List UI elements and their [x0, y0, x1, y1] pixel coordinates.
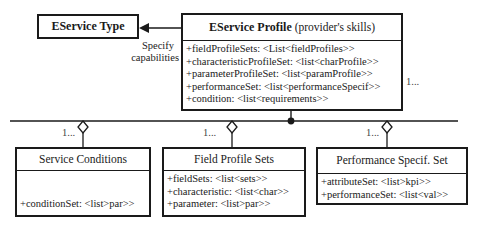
- attribute: +fieldSets: <list<sets>>: [167, 173, 301, 186]
- attribute: +parameter: <list>par>>: [167, 198, 301, 211]
- class-name: EService Profile: [209, 20, 292, 34]
- attribute-list: +fieldProfileSets: <List<fieldProfiles>>…: [183, 41, 401, 108]
- association-label: Specify capabilities: [137, 40, 179, 64]
- arrowhead-icon: [139, 23, 149, 33]
- attribute: +characteristic: <list<char>>: [167, 186, 301, 199]
- attribute: +fieldProfileSets: <List<fieldProfiles>>: [186, 43, 398, 56]
- multiplicity-label: 1...: [203, 127, 216, 139]
- multiplicity-label: 1...: [366, 127, 379, 139]
- class-header: Performance Specif. Set: [318, 149, 466, 174]
- class-header: Field Profile Sets: [164, 149, 304, 171]
- class-name: Performance Specif. Set: [336, 154, 447, 166]
- attribute: +parameterProfileSet: <list<paramProfile…: [186, 68, 398, 81]
- aggregation-diamond-icon: [227, 121, 237, 147]
- class-field-profile-sets: Field Profile Sets +fieldSets: <list<set…: [162, 147, 306, 217]
- class-name: EService Type: [39, 16, 137, 37]
- attribute-list: +conditionSet: <list>par>> - relational:…: [17, 171, 149, 227]
- label-line: capabilities: [129, 52, 179, 64]
- class-header: EService Profile (provider's skills): [183, 15, 401, 41]
- class-name: Field Profile Sets: [194, 153, 274, 165]
- aggregation-diamond-icon: [382, 121, 392, 147]
- attribute: +performanceSet: <list<performanceSpecif…: [186, 81, 398, 94]
- attribute-list: +attributeSet: <list>kpi>> +performanceS…: [318, 174, 466, 203]
- class-eservice-profile: EService Profile (provider's skills) +fi…: [181, 13, 403, 111]
- class-performance-specif-set: Performance Specif. Set +attributeSet: <…: [316, 147, 468, 205]
- class-header: Service Conditions: [17, 149, 149, 171]
- aggregation-diamond-icon: [78, 121, 88, 147]
- attribute: +performanceSet: <list<val>>: [321, 189, 463, 202]
- label-line: Specify: [137, 40, 179, 52]
- multiplicity-label: 1...: [62, 127, 75, 139]
- class-name: Service Conditions: [39, 153, 127, 165]
- attribute: +characteristicProfileSet: <list<charPro…: [186, 56, 398, 69]
- class-eservice-type: EService Type: [37, 14, 139, 39]
- multiplicity-label: 1...: [406, 76, 419, 88]
- attribute: +condition: <list<requirements>>: [186, 93, 398, 106]
- attribute-list: +fieldSets: <list<sets>> +characteristic…: [164, 171, 304, 213]
- class-service-conditions: Service Conditions +conditionSet: <list>…: [15, 147, 151, 217]
- attribute: +attributeSet: <list>kpi>>: [321, 176, 463, 189]
- class-note: (provider's skills): [292, 21, 375, 33]
- attribute: +conditionSet: <list>par>>: [20, 198, 146, 211]
